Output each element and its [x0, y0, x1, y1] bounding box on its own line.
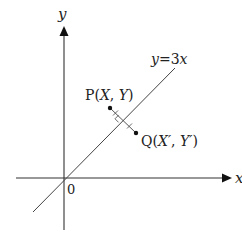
x-axis-arrow-icon [222, 174, 232, 183]
point-q-coord2: Y′ [180, 133, 193, 149]
diagram-canvas: y x 0 y=3x P(X, Y) Q(X′, Y′) [0, 0, 242, 240]
y-axis [60, 26, 69, 230]
point-p-sep: , [110, 87, 119, 103]
point-q-label: Q(X′, Y′) [141, 133, 198, 149]
point-p-label: P(X, Y) [85, 87, 133, 103]
point-p-close: ) [128, 87, 133, 103]
reflection-diagram: y x 0 y=3x P(X, Y) Q(X′, Y′) [0, 0, 242, 240]
point-q-coord1: X′ [157, 133, 172, 149]
point-p-name: P [85, 87, 94, 103]
tick-mark-lower [127, 124, 132, 129]
line-label-x: x [180, 51, 188, 67]
x-axis-label: x [235, 169, 242, 187]
x-axis [16, 174, 232, 183]
point-q-close: ) [192, 133, 197, 149]
line-label: y=3x [150, 51, 188, 67]
y-axis-label: y [57, 5, 67, 23]
origin-label: 0 [67, 182, 75, 197]
point-q-name: Q [141, 133, 152, 149]
line-label-eq: = [159, 51, 171, 67]
point-p-dot [108, 106, 112, 110]
y-axis-arrow-icon [60, 26, 69, 36]
point-q-sep: , [171, 133, 180, 149]
point-q-dot [134, 131, 138, 135]
line-label-3: 3 [171, 51, 180, 67]
